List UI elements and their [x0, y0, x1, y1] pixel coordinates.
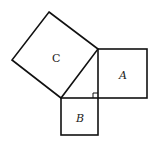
label-b: B: [75, 112, 84, 125]
label-a: A: [118, 69, 127, 82]
diagram-svg: C A B: [0, 0, 163, 144]
label-c: C: [52, 52, 60, 65]
pythagorean-diagram: C A B: [0, 0, 163, 144]
